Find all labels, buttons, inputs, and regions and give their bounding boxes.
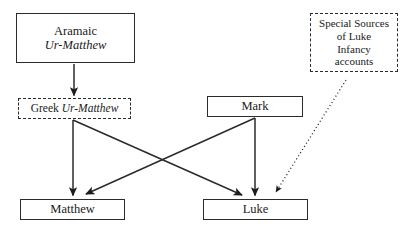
- node-aramaic-ur-matthew[interactable]: Aramaic Ur-Matthew: [16, 13, 135, 63]
- node-label-line: of Luke: [337, 30, 372, 43]
- node-label-line: Infancy: [337, 43, 371, 56]
- node-label-line: Aramaic: [54, 24, 97, 39]
- node-label-line: Matthew: [50, 202, 94, 217]
- node-label-part: Ur-Matthew: [62, 102, 119, 114]
- node-label-line: accounts: [335, 55, 373, 68]
- diagram-canvas: Aramaic Ur-Matthew Greek Ur-Matthew Spec…: [0, 0, 419, 231]
- node-label-line: Greek Ur-Matthew: [31, 102, 119, 115]
- node-greek-ur-matthew[interactable]: Greek Ur-Matthew: [18, 98, 131, 119]
- node-label-line: Luke: [243, 202, 269, 217]
- edge-greek-to-luke: [73, 120, 242, 195]
- node-matthew[interactable]: Matthew: [20, 199, 125, 220]
- node-label-line: Special Sources: [319, 17, 389, 30]
- node-luke[interactable]: Luke: [203, 199, 308, 220]
- node-label-part: Greek: [31, 102, 62, 114]
- edge-mark-to-matthew: [86, 118, 255, 194]
- node-special-sources-luke-infancy[interactable]: Special Sources of Luke Infancy accounts: [310, 13, 398, 72]
- node-mark[interactable]: Mark: [207, 96, 303, 117]
- node-label-line: Ur-Matthew: [45, 38, 107, 53]
- node-label-line: Mark: [241, 99, 268, 114]
